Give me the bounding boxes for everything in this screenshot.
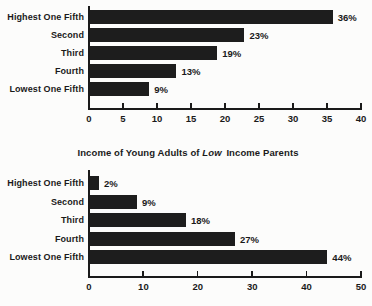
bar — [88, 250, 327, 264]
chart-title-segment: Income Parents — [224, 147, 299, 158]
chart-title-italic-segment: Low — [202, 147, 223, 158]
value-label: 18% — [191, 215, 210, 226]
value-label: 27% — [240, 233, 259, 244]
chart-title-segment: Income of Young Adults of — [77, 147, 202, 158]
figure-canvas: Highest One Fifth36%Second23%Third19%Fou… — [0, 0, 372, 306]
axis-tick — [197, 271, 199, 276]
bar — [88, 213, 186, 227]
axis-tick-label: 30 — [247, 281, 258, 292]
chart-low-parent-income: Income of Young Adults of Low Income Par… — [0, 0, 372, 306]
y-axis-line — [88, 170, 90, 278]
bar — [88, 176, 99, 190]
value-label: 9% — [142, 196, 156, 207]
axis-tick-label: 50 — [356, 281, 367, 292]
axis-tick — [142, 271, 144, 276]
chart-title: Income of Young Adults of Low Income Par… — [77, 147, 298, 158]
axis-tick — [251, 271, 253, 276]
category-label: Second — [0, 197, 84, 207]
category-label: Lowest One Fifth — [0, 252, 84, 262]
category-label: Highest One Fifth — [0, 178, 84, 188]
bar — [88, 195, 137, 209]
value-label: 2% — [104, 178, 118, 189]
axis-tick-label: 40 — [301, 281, 312, 292]
bar — [88, 232, 235, 246]
value-label: 44% — [332, 252, 351, 263]
axis-tick — [360, 271, 362, 276]
axis-tick-label: 10 — [138, 281, 149, 292]
axis-tick-label: 0 — [86, 281, 91, 292]
x-axis-line — [88, 276, 362, 278]
axis-tick-label: 20 — [193, 281, 204, 292]
category-label: Third — [0, 215, 84, 225]
axis-tick — [306, 271, 308, 276]
category-label: Fourth — [0, 234, 84, 244]
